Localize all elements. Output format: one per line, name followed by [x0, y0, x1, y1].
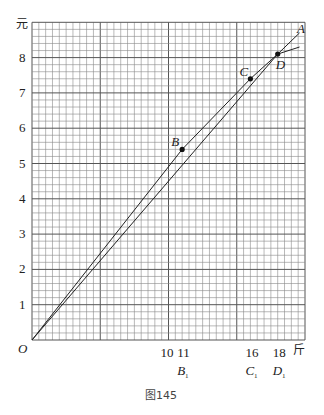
point-label-b: B [171, 135, 179, 148]
y-tick-label: 2 [19, 262, 26, 275]
point-label-a: A [297, 22, 305, 35]
series-line-1 [32, 47, 300, 340]
x-tick-label: 10 [161, 346, 174, 359]
origin-label: O [18, 342, 27, 355]
y-tick-label: 4 [19, 192, 26, 205]
x-sub-label-d: D1 [273, 364, 286, 380]
y-tick-label: 8 [19, 51, 26, 64]
x-tick-label: 16 [245, 346, 258, 359]
x-axis-label: 斤 [293, 344, 305, 356]
y-tick-label: 5 [19, 157, 26, 170]
y-tick-label: 3 [19, 227, 26, 240]
y-axis-label: 元 [16, 18, 28, 30]
x-tick-label: 18 [273, 346, 286, 359]
y-tick-label: 1 [19, 298, 26, 311]
x-tick-label: 11 [177, 346, 190, 359]
y-tick-label: 6 [19, 121, 26, 134]
point-label-d: D [276, 58, 285, 71]
x-sub-label-c: C1 [245, 364, 257, 380]
point-c-marker [248, 76, 253, 81]
point-label-c: C [239, 65, 248, 78]
point-b-marker [180, 147, 185, 152]
figure-caption: 图145 [145, 386, 177, 402]
y-tick-label: 7 [19, 86, 26, 99]
x-sub-label-b: B1 [177, 364, 188, 380]
point-d-marker [275, 51, 280, 56]
